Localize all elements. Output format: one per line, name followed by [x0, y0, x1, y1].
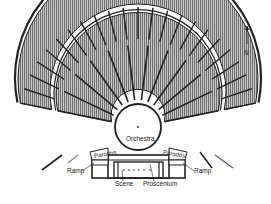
ramp-right-line — [200, 152, 212, 168]
cavea-seating — [15, 0, 261, 150]
label-ramp-left: Ramp — [67, 168, 84, 175]
label-north: N — [244, 50, 249, 57]
proscenium-outline — [108, 155, 169, 178]
theatre-plan-svg — [0, 0, 271, 204]
label-orchestra: Orchestra — [126, 136, 155, 143]
stage-building — [42, 148, 233, 181]
label-proscenium: Proscenium — [143, 181, 177, 188]
theatre-plan-diagram: Orchestra Parodos Parodos Ramp Ramp Scen… — [0, 0, 271, 204]
label-scene: Scene — [115, 181, 133, 188]
label-ramp-right: Ramp — [194, 168, 211, 175]
ramp-left-line — [42, 155, 62, 170]
